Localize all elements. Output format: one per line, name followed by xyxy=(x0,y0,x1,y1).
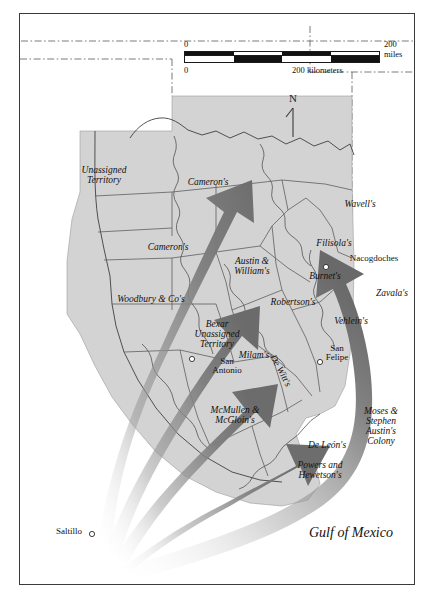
map-frame: 0 200 miles 0 200 kilometers N xyxy=(19,13,415,585)
city-dot-san-antonio xyxy=(189,356,194,361)
city-dot-nacogdoches xyxy=(323,264,328,269)
grant-label-bexar-unassigned: BexarUnassignedTerritory xyxy=(183,320,251,350)
water-label-gulf-of-mexico: Gulf of Mexico xyxy=(296,526,406,541)
grant-label-cameron-west: Cameron's xyxy=(132,243,204,253)
scale-km-max: 200 kilometers xyxy=(292,65,343,75)
grant-label-moses-stephen-austin: Moses &StephenAustin'sColony xyxy=(350,407,412,447)
map-geometry-layer xyxy=(20,14,414,584)
grant-label-powers-and-hewetson: Powers andHewetson's xyxy=(282,461,358,481)
grant-label-cameron-north: Cameron's xyxy=(172,178,244,188)
grant-label-vehlein: Vehlein's xyxy=(318,317,384,327)
city-label-san-felipe: SanFelipe xyxy=(317,344,357,363)
city-label-saltillo: Saltillo xyxy=(43,527,95,536)
grant-label-zavala: Zavala's xyxy=(360,289,415,299)
scale-miles-zero: 0 xyxy=(184,39,188,49)
historical-map: 0 200 miles 0 200 kilometers N xyxy=(0,0,431,595)
scale-bar: 0 200 miles 0 200 kilometers xyxy=(184,40,394,76)
north-arrow-icon xyxy=(282,104,304,138)
grant-label-mcmullen-and-mcgloin: McMullen &McGloin's xyxy=(195,406,275,426)
grant-label-burnet: Burnet's xyxy=(292,272,358,282)
grant-label-robertson: Robertson's xyxy=(250,298,336,308)
city-label-nacogdoches: Nacogdoches xyxy=(336,254,412,263)
grant-label-wavell: Wavell's xyxy=(326,200,394,210)
north-label: N xyxy=(275,92,311,104)
grant-label-austin-and-william: Austin &William's xyxy=(218,257,286,277)
grant-label-unassigned-territory: UnassignedTerritory xyxy=(68,166,140,186)
north-arrow: N xyxy=(275,92,311,142)
grant-label-woodbury-and-co: Woodbury & Co's xyxy=(96,295,206,305)
scale-km-zero: 0 xyxy=(184,65,188,75)
grant-label-filisola: Filisola's xyxy=(298,239,370,249)
city-label-san-antonio: SanAntonio xyxy=(205,357,249,376)
